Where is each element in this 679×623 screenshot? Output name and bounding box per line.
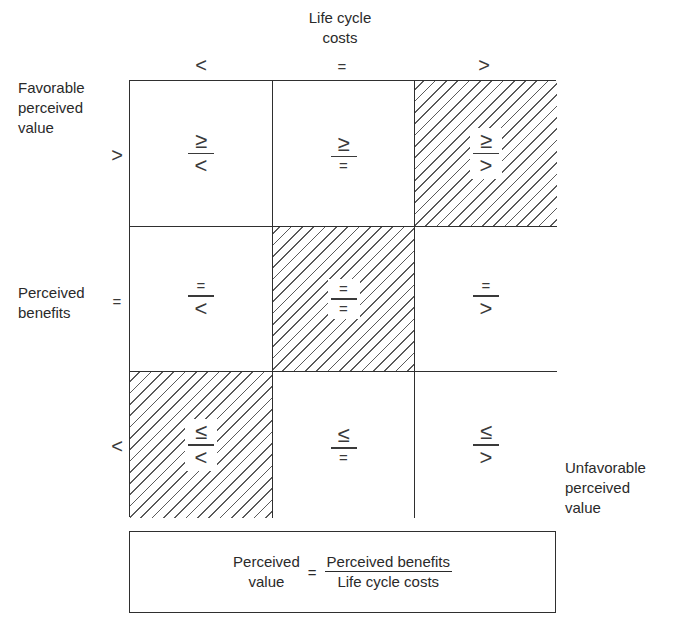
fraction-denominator: = <box>333 450 355 466</box>
fraction-numerator: ≤ <box>190 421 212 443</box>
formula-lhs: Perceived value <box>233 552 300 592</box>
perceived-value-formula: Perceived value = Perceived benefits Lif… <box>233 552 452 592</box>
perceived-benefits-line2: benefits <box>18 303 85 323</box>
perceived-benefits-line1: Perceived <box>18 283 85 303</box>
column-axis-title-line1: Life cycle <box>270 8 410 28</box>
ratio-fraction: ≥ = <box>331 133 357 175</box>
fraction-denominator: > <box>475 155 497 177</box>
ratio-fraction: = = <box>328 279 360 319</box>
fraction-numerator: ≤ <box>333 424 355 446</box>
favorable-perceived-value-label: Favorable perceived value <box>18 78 85 138</box>
perceived-benefits-label: Perceived benefits <box>18 283 85 323</box>
cell-r2-c3: = > <box>415 227 557 372</box>
cell-r3-c1-hatched: ≤ < <box>130 372 273 518</box>
column-axis-title-line2: costs <box>270 28 410 48</box>
formula-box: Perceived value = Perceived benefits Lif… <box>129 531 556 613</box>
cell-r1-c3-hatched: ≥ > <box>415 81 557 227</box>
unfavorable-perceived-value-label: Unfavorable perceived value <box>565 458 646 518</box>
cell-r1-c2: ≥ = <box>273 81 415 227</box>
fraction-numerator: = <box>333 281 355 297</box>
formula-equals: = <box>306 564 319 581</box>
fraction-denominator: > <box>475 447 497 469</box>
fraction-denominator: < <box>190 155 212 177</box>
fraction-numerator: ≥ <box>333 133 355 155</box>
fraction-denominator: > <box>475 298 497 320</box>
row-symbol-less: < <box>106 436 128 456</box>
fraction-denominator: < <box>190 298 212 320</box>
ratio-fraction: ≤ < <box>185 419 217 471</box>
formula-numerator: Perceived benefits <box>325 552 452 571</box>
cell-r2-c2-hatched: = = <box>273 227 415 372</box>
unfavorable-label-line1: Unfavorable <box>565 458 646 478</box>
fraction-numerator: = <box>475 278 497 294</box>
fraction-numerator: = <box>190 278 212 294</box>
row-symbol-equal: = <box>106 292 128 312</box>
favorable-label-line3: value <box>18 118 85 138</box>
formula-rhs-fraction: Perceived benefits Life cycle costs <box>325 552 452 592</box>
formula-lhs-line1: Perceived <box>233 552 300 572</box>
column-symbol-greater: > <box>469 55 499 75</box>
ratio-fraction: ≥ > <box>470 128 502 180</box>
row-symbol-greater: > <box>106 145 128 165</box>
perceived-value-matrix: ≥ < ≥ = ≥ > = < = = = <box>129 80 556 517</box>
column-symbol-less: < <box>186 55 216 75</box>
ratio-fraction: ≤ = <box>331 424 357 466</box>
cell-r1-c1: ≥ < <box>130 81 273 227</box>
ratio-fraction: = > <box>473 278 499 320</box>
unfavorable-label-line2: perceived <box>565 478 646 498</box>
cell-r3-c3: ≤ > <box>415 372 557 518</box>
column-axis-title: Life cycle costs <box>270 8 410 48</box>
favorable-label-line1: Favorable <box>18 78 85 98</box>
cell-r2-c1: = < <box>130 227 273 372</box>
fraction-numerator: ≤ <box>475 421 497 443</box>
unfavorable-label-line3: value <box>565 498 646 518</box>
fraction-numerator: ≥ <box>475 130 497 152</box>
fraction-denominator: = <box>333 301 355 317</box>
fraction-denominator: = <box>333 158 355 174</box>
ratio-fraction: ≥ < <box>188 130 214 178</box>
fraction-numerator: ≥ <box>190 130 212 152</box>
ratio-fraction: = < <box>188 278 214 320</box>
favorable-label-line2: perceived <box>18 98 85 118</box>
formula-lhs-line2: value <box>233 572 300 592</box>
fraction-denominator: < <box>190 447 212 469</box>
cell-r3-c2: ≤ = <box>273 372 415 518</box>
formula-denominator: Life cycle costs <box>335 572 441 592</box>
ratio-fraction: ≤ > <box>473 421 499 469</box>
column-symbol-equal: = <box>327 57 357 77</box>
